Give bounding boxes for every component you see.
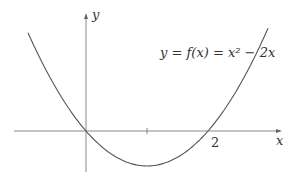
equation-label: y = f(x) = x² − 2x bbox=[159, 45, 276, 60]
function-plot: y x 2 y = f(x) = x² − 2x bbox=[0, 0, 294, 179]
parabola-curve bbox=[28, 16, 268, 166]
x-tick-label-2: 2 bbox=[211, 135, 219, 150]
y-axis-arrow-icon bbox=[84, 13, 88, 19]
x-axis-label: x bbox=[276, 133, 284, 148]
y-axis-label: y bbox=[91, 7, 100, 22]
